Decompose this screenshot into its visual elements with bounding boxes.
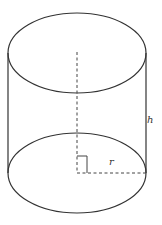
cylinder-diagram: h r	[0, 0, 162, 225]
height-label: h	[147, 114, 153, 125]
right-angle-marker	[77, 156, 87, 173]
radius-label: r	[109, 156, 115, 167]
